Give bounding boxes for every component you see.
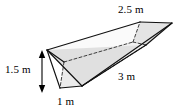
geometry-figure: 2.5 m 1.5 m 3 m 1 m	[0, 0, 181, 112]
height-dimension-arrow	[39, 50, 45, 93]
dimension-label-height: 1.5 m	[5, 64, 31, 75]
height-arrow-head-bottom	[39, 85, 45, 93]
height-arrow-head-top	[39, 50, 45, 58]
dimension-label-top-width: 2.5 m	[118, 4, 144, 15]
dimension-label-length: 3 m	[118, 71, 135, 82]
dimension-label-bottom-width: 1 m	[57, 96, 74, 107]
prism-drawing	[0, 0, 181, 112]
